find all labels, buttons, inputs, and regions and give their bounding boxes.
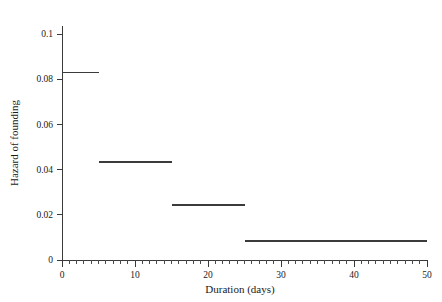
- x-tick-label-40: 40: [349, 270, 359, 280]
- x-tick-label-20: 20: [203, 270, 213, 280]
- x-tick-label-50: 50: [422, 270, 432, 280]
- x-tick-label-0: 0: [60, 270, 65, 280]
- hazard-step-chart: 0 0.02 0.04 0.06 0.08 0.1: [0, 0, 442, 302]
- plot-background: [0, 0, 442, 302]
- chart-container: 0 0.02 0.04 0.06 0.08 0.1: [0, 0, 442, 302]
- y-tick-label-0.1: 0.1: [41, 29, 53, 39]
- y-tick-label-0.02: 0.02: [36, 210, 53, 220]
- x-tick-label-10: 10: [130, 270, 140, 280]
- x-tick-label-30: 30: [276, 270, 286, 280]
- x-axis-title: Duration (days): [205, 283, 275, 296]
- y-tick-label-0.08: 0.08: [36, 74, 53, 84]
- y-tick-label-0: 0: [48, 255, 53, 265]
- y-axis-title: Hazard of founding: [8, 99, 20, 186]
- y-tick-label-0.04: 0.04: [36, 165, 53, 175]
- y-tick-label-0.06: 0.06: [36, 120, 53, 130]
